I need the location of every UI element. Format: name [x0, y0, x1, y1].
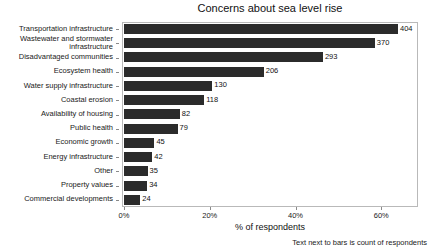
bar-value-label: 404 [400, 24, 413, 34]
bar[interactable] [124, 166, 148, 176]
category-tick-mark [116, 72, 119, 73]
bar-row[interactable]: 404 [122, 22, 418, 36]
x-tick-mark [210, 207, 211, 210]
bar[interactable] [124, 67, 264, 77]
chart-container: Concerns about sea level rise Transporta… [0, 0, 433, 252]
category-tick-mark [116, 29, 119, 30]
bar-row[interactable]: 45 [122, 136, 418, 150]
bar[interactable] [124, 109, 180, 119]
bar-row[interactable]: 34 [122, 179, 418, 193]
category-tick-mark [116, 58, 119, 59]
bar-value-label: 130 [214, 80, 227, 90]
category-tick-mark [116, 143, 119, 144]
category-label: Economic growth [0, 138, 113, 147]
category-label: Availability of housing [0, 110, 113, 119]
category-label: Energy infrastructure [0, 153, 113, 162]
category-tick-mark [116, 86, 119, 87]
bar[interactable] [124, 81, 212, 91]
bar[interactable] [124, 195, 140, 205]
bar-value-label: 35 [150, 166, 158, 176]
bar-value-label: 370 [377, 38, 390, 48]
bar[interactable] [124, 95, 204, 105]
bar-row[interactable]: 79 [122, 122, 418, 136]
category-axis: Transportation infrastructureWastewater … [0, 22, 119, 207]
category-label: Coastal erosion [0, 96, 113, 105]
category-label: Transportation infrastructure [0, 25, 113, 34]
bar-row[interactable]: 24 [122, 193, 418, 207]
bar-row[interactable]: 35 [122, 164, 418, 178]
category-label: Property values [0, 181, 113, 190]
category-tick-mark [116, 186, 119, 187]
x-tick-label: 0% [119, 211, 130, 220]
bar-value-label: 82 [182, 109, 190, 119]
bar[interactable] [124, 138, 154, 148]
bars-group: 40437029320613011882794542353424 [122, 22, 418, 207]
category-tick-mark [116, 43, 119, 44]
x-tick-label: 20% [202, 211, 217, 220]
bar[interactable] [124, 52, 323, 62]
bar-row[interactable]: 130 [122, 79, 418, 93]
bar-row[interactable]: 370 [122, 36, 418, 50]
category-label: Ecosystem health [0, 67, 113, 76]
bar-value-label: 293 [325, 52, 338, 62]
bar-value-label: 118 [206, 95, 218, 105]
category-tick-mark [116, 157, 119, 158]
category-label: Commercial developments [0, 195, 113, 204]
bar-value-label: 42 [154, 152, 162, 162]
bar[interactable] [124, 24, 398, 34]
category-label: Disadvantaged communities [0, 53, 113, 62]
bar-value-label: 34 [149, 180, 157, 190]
bar[interactable] [124, 124, 178, 134]
bar-value-label: 45 [156, 137, 164, 147]
category-label: Other [0, 167, 113, 176]
category-label: Public health [0, 124, 113, 133]
bar-row[interactable]: 293 [122, 50, 418, 64]
category-tick-mark [116, 171, 119, 172]
category-tick-mark [116, 100, 119, 101]
x-tick-label: 60% [374, 211, 389, 220]
category-tick-mark [116, 129, 119, 130]
bar-value-label: 79 [180, 123, 188, 133]
bar-value-label: 24 [142, 194, 150, 204]
bar[interactable] [124, 181, 147, 191]
category-label: Wastewater and stormwater infrastructure [0, 35, 113, 52]
category-label: Water supply infrastructure [0, 82, 113, 91]
x-axis-label: % of respondents [122, 222, 418, 233]
x-tick-mark [381, 207, 382, 210]
bar-value-label: 206 [266, 66, 279, 76]
bar-row[interactable]: 206 [122, 65, 418, 79]
bar-row[interactable]: 42 [122, 150, 418, 164]
x-tick-mark [124, 207, 125, 210]
bar-row[interactable]: 82 [122, 107, 418, 121]
bar[interactable] [124, 152, 152, 162]
x-tick-label: 40% [288, 211, 303, 220]
chart-title: Concerns about sea level rise [122, 2, 418, 15]
category-tick-mark [116, 115, 119, 116]
x-tick-mark [296, 207, 297, 210]
bar-row[interactable]: 118 [122, 93, 418, 107]
chart-caption: Text next to bars is count of respondent… [292, 238, 427, 247]
category-tick-mark [116, 200, 119, 201]
bar[interactable] [124, 38, 375, 48]
